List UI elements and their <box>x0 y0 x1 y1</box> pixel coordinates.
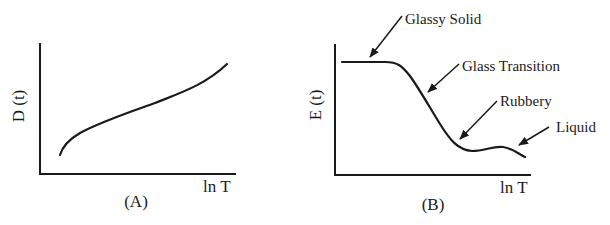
annotation-glassy-solid: Glassy Solid <box>405 11 482 27</box>
panel-b-xlabel: ln T <box>500 178 528 197</box>
panel-a-ylabel: D (t) <box>9 90 28 123</box>
figure: D (t) ln T (A) E (t) ln T (B) Glassy Sol… <box>0 0 610 225</box>
annotation-glass-transition: Glass Transition <box>462 58 560 74</box>
glassy-solid-arrow-icon <box>370 16 402 57</box>
panel-b-ylabel: E (t) <box>306 90 325 121</box>
liquid-arrow-icon <box>519 127 549 145</box>
rubbery-arrow-icon <box>460 101 497 139</box>
annotation-rubbery: Rubbery <box>500 93 552 109</box>
panel-a-xlabel: ln T <box>203 177 231 196</box>
glass-transition-arrow-icon <box>428 64 459 92</box>
panel-a-curve <box>60 64 227 155</box>
panel-b-label: (B) <box>422 195 445 214</box>
panel-b-curve <box>342 62 525 157</box>
panel-b: E (t) ln T (B) Glassy Solid Glass Transi… <box>306 11 596 214</box>
panel-a: D (t) ln T (A) <box>9 43 236 211</box>
panel-a-label: (A) <box>124 192 148 211</box>
annotation-liquid: Liquid <box>556 119 596 135</box>
